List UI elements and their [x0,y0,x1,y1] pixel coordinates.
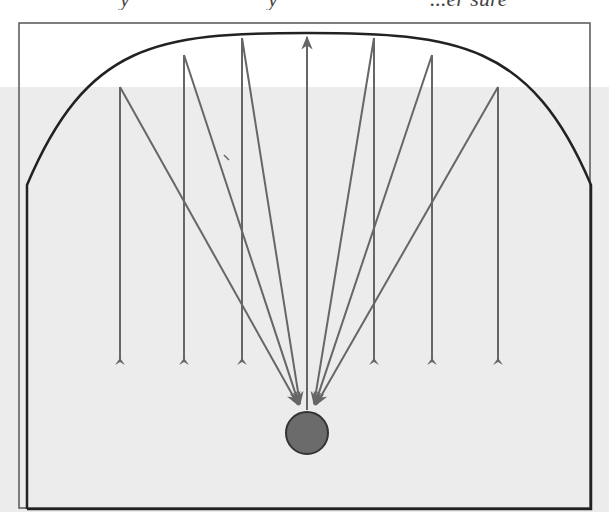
reflector-diagram [0,0,609,512]
reflected-ray [242,38,300,404]
ray-group [115,38,503,405]
arrow-fletching-icon [493,358,503,365]
arrow-fletching-icon [369,358,379,365]
stray-mark [224,155,229,160]
arrow-fletching-icon [115,358,125,365]
target-ball [286,412,328,454]
arrow-fletching-icon [237,358,247,365]
reflected-ray [316,87,498,405]
arrow-fletching-icon [427,358,437,365]
arrow-fletching-icon [179,358,189,365]
reflected-ray [120,87,298,405]
reflected-ray [314,38,374,404]
